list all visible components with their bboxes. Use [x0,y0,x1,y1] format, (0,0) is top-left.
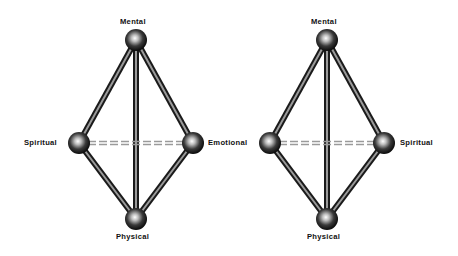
edge-mental-left [270,40,327,143]
node-physical [125,208,147,230]
edge-mental-spiritual [79,40,136,143]
edge-left-physical [270,143,327,219]
label-spiritual-2: Spiritual [400,138,433,147]
edge-mental-spiritual [327,40,384,143]
label-spiritual-1: Spiritual [24,138,57,147]
label-mental-1: Mental [120,17,146,26]
node-physical [316,208,338,230]
node-spiritual [68,132,90,154]
diagram-canvas [0,0,458,256]
diagram-1 [68,29,204,230]
label-mental-2: Mental [311,17,337,26]
node-spiritual [373,132,395,154]
edge-spiritual-physical [79,143,136,219]
node-mental [316,29,338,51]
edge-spiritual-physical [327,143,384,219]
edge-emotional-physical [136,143,193,219]
label-physical-2: Physical [307,232,340,241]
label-emotional-1: Emotional [208,138,247,147]
node-left [259,132,281,154]
edge-mental-emotional [136,40,193,143]
node-mental [125,29,147,51]
label-physical-1: Physical [116,232,149,241]
diagram-2 [259,29,395,230]
node-emotional [182,132,204,154]
